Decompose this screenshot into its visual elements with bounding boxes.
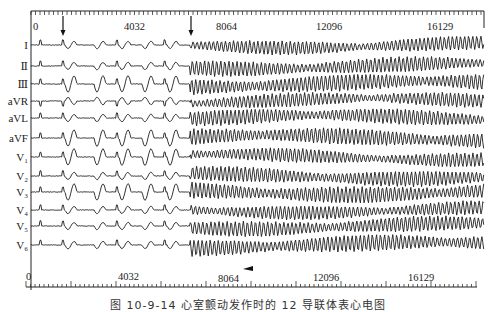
lead-label-iii: Ⅲ [0, 78, 28, 90]
ecg-trace-v₂ [31, 166, 484, 187]
ecg-trace-v₅ [31, 216, 484, 237]
top-tick-8064: 8064 [216, 21, 237, 32]
top-tick-12096: 12096 [316, 21, 342, 32]
figure-caption: 图 10-9-14 心室颤动发作时的 12 导联体表心电图 [110, 296, 410, 312]
lead-label-ii: Ⅱ [0, 60, 28, 72]
lead-label-i: I [0, 39, 28, 51]
ecg-trace-v₆ [31, 235, 484, 257]
top-tick-0: 0 [33, 21, 38, 32]
lead-label-v3: V₃ [0, 186, 28, 198]
ecg-trace-v₁ [31, 148, 484, 167]
ecg-trace-ⅱ [31, 56, 484, 76]
ecg-trace-ⅲ [31, 74, 484, 95]
ecg-trace-avr [31, 92, 484, 108]
top-tick-16129: 16129 [427, 21, 453, 32]
bottom-tick-16129: 16129 [408, 272, 434, 283]
lead-label-v6: V₆ [0, 239, 28, 251]
lead-label-avr: aVR [0, 95, 28, 107]
ecg-trace-i [31, 36, 484, 55]
bottom-tick-8064: 8064 [218, 273, 239, 284]
marker-arrow-bottom [243, 266, 253, 271]
lead-label-v5: V₅ [0, 220, 28, 232]
lead-label-avf: aVF [0, 132, 28, 144]
ecg-trace-v₄ [31, 201, 484, 220]
lead-label-v1: V₁ [0, 151, 28, 163]
lead-label-v4: V₄ [0, 204, 28, 216]
bottom-tick-0: 0 [26, 271, 31, 282]
bottom-tick-12096: 12096 [313, 272, 339, 283]
onset-arrow-1-head [61, 30, 66, 36]
ecg-trace-avl [31, 109, 484, 126]
onset-arrow-2-head [189, 30, 194, 36]
lead-label-avl: aVL [0, 112, 28, 124]
top-tick-4032: 4032 [124, 21, 145, 32]
ecg-trace-avf [31, 128, 484, 149]
ecg-trace-v₃ [31, 182, 484, 203]
bottom-tick-4032: 4032 [118, 271, 139, 282]
lead-label-v2: V₂ [0, 170, 28, 182]
